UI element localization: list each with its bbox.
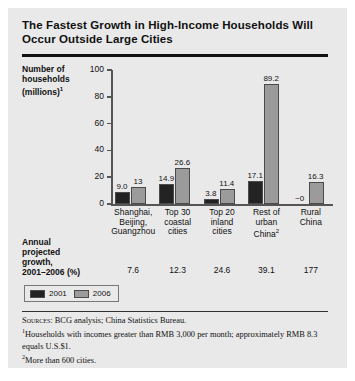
bar-series-container: 9.01314.926.63.811.417.189.2~016.3 [111,70,333,204]
bar-value-label: 11.4 [212,179,242,188]
footnote-2: 2More than 600 cities. [22,352,332,366]
growth-label-line4: 2001–2006 (%) [22,267,80,277]
footnote-1-text: Households with incomes greater than RMB… [22,330,317,350]
bar-value-label: 13 [123,177,153,186]
category-label-line: Shanghai, [114,207,152,217]
category-label-line: urban [256,217,278,227]
y-axis-tick-label: 0 [82,199,104,208]
growth-label-line3: growth, [22,257,53,267]
bar-group: 3.811.4 [200,70,244,204]
category-label-line: Beijing, [119,217,147,227]
bar-value-label: 26.6 [167,158,197,167]
growth-row-label: Annual projected growth, 2001–2006 (%) [22,237,108,277]
y-axis-tick-label: 80 [82,92,104,101]
growth-label-line1: Annual [22,237,51,247]
category-label-line: cities [168,226,187,236]
y-axis-label-line2: households [22,74,70,84]
bar-value-label: 16.3 [301,172,331,181]
y-axis-tick-label: 100 [82,65,104,74]
y-axis-tick-label: 40 [82,145,104,154]
category-label: RuralChina [285,208,337,227]
legend-item-2001: 2001 [30,289,67,298]
chart-plot-area: Number of households (millions)1 0204060… [8,8,347,368]
bar-2001 [204,199,219,204]
y-axis-label-footnote-marker: 1 [60,86,63,92]
category-label-line: China [300,217,322,227]
category-footnote-marker: 2 [276,228,279,234]
bar-2006 [309,182,324,204]
category-label-line: coastal [164,217,191,227]
bar-2006 [220,189,235,204]
bar-2006 [175,168,190,204]
legend-label: 2006 [93,289,111,298]
category-label-line: Top 30 [165,207,191,217]
footnote-2-text: More than 600 cities. [25,356,96,365]
footnote-1: 1Households with incomes greater than RM… [22,326,332,352]
growth-value: 177 [285,265,337,275]
bar-group: 17.189.2 [244,70,288,204]
y-axis-label-line1: Number of [22,64,65,74]
figure-panel: The Fastest Growth in High-Income Househ… [8,8,347,368]
sources-prefix: Sources: [22,316,53,325]
legend-swatch [74,290,89,298]
legend-label: 2001 [49,289,67,298]
sources-text: BCG analysis; China Statistics Bureau. [53,316,187,325]
category-label-line: Guangzhou [111,226,155,236]
bar-2001 [159,184,174,204]
growth-label-line2: projected [22,247,60,257]
y-axis-label-line3: (millions) [22,87,60,97]
chart-legend: 20012006 [24,285,119,302]
category-label-line: Rural [301,207,321,217]
category-label-line: cities [212,226,231,236]
legend-item-2006: 2006 [74,289,111,298]
bar-group: ~016.3 [289,70,333,204]
x-axis-line [111,204,333,206]
bar-group: 9.013 [111,70,155,204]
bar-2001 [248,181,263,204]
bar-2006 [264,84,279,204]
category-label-line: inland [211,217,234,227]
bar-value-label: 89.2 [256,74,286,83]
y-axis-tick-label: 60 [82,119,104,128]
category-label-line: Top 20 [209,207,235,217]
y-axis-tick-label: 20 [82,172,104,181]
category-label-line: China [254,229,276,239]
legend-swatch [30,290,45,298]
sources-line: Sources: BCG analysis; China Statistics … [22,315,332,326]
bar-2001 [115,192,130,204]
bar-2006 [131,187,146,204]
notes-divider [22,311,328,312]
bar-group: 14.926.6 [155,70,199,204]
category-label-line: Rest of [253,207,280,217]
chart-notes: Sources: BCG analysis; China Statistics … [22,315,332,366]
